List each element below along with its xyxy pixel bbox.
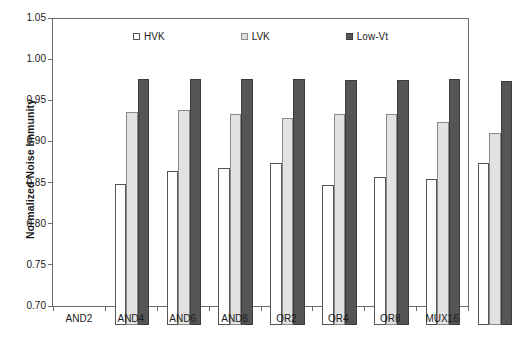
x-axis-tick-mark	[105, 307, 106, 311]
plot-area	[52, 18, 469, 307]
bar-group	[365, 38, 417, 325]
bar-lvk-and4	[178, 110, 190, 325]
bar-hvk-mux16	[478, 163, 490, 325]
bar-hvk-and6	[218, 168, 230, 325]
bar-hvk-or2	[322, 185, 334, 325]
x-axis-tick-mark	[416, 307, 417, 311]
bar-low-vt-and4	[190, 79, 202, 325]
bar-lvk-or2	[334, 114, 346, 325]
x-axis-tick-mark	[312, 307, 313, 311]
bar-group	[417, 38, 469, 325]
bar-lvk-or8	[437, 122, 449, 325]
bar-lvk-mux16	[489, 133, 501, 325]
x-axis-tick-mark	[209, 307, 210, 311]
bar-hvk-and8	[270, 163, 282, 325]
x-axis-tick-mark	[261, 307, 262, 311]
bar-group	[469, 38, 516, 325]
bar-low-vt-and6	[241, 79, 253, 325]
bar-low-vt-or2	[345, 80, 357, 325]
bar-group	[262, 38, 314, 325]
bar-hvk-and2	[115, 184, 127, 325]
y-axis-tick: 1.00	[0, 53, 52, 65]
bar-low-vt-and8	[293, 79, 305, 325]
bar-lvk-and2	[126, 112, 138, 325]
bar-low-vt-mux16	[501, 81, 513, 325]
y-axis-tick: 0.85	[0, 177, 52, 189]
y-axis-tick: 1.05	[0, 12, 52, 24]
x-axis-tick-mark	[157, 307, 158, 311]
y-axis-title: Normalized Noise Immunity	[24, 59, 36, 279]
bar-series-layer	[106, 38, 516, 325]
bar-hvk-or8	[426, 179, 438, 325]
bar-low-vt-or4	[397, 80, 409, 325]
bar-group	[106, 38, 158, 325]
x-axis-tick-mark	[468, 307, 469, 311]
bar-lvk-and8	[282, 118, 294, 325]
y-axis-tick: 0.95	[0, 94, 52, 106]
bar-low-vt-and2	[138, 79, 150, 325]
bar-group	[314, 38, 366, 325]
bar-group	[210, 38, 262, 325]
bar-hvk-and4	[167, 171, 179, 325]
y-axis-tick: 0.75	[0, 259, 52, 271]
bar-hvk-or4	[374, 177, 386, 325]
y-axis-tick: 0.90	[0, 135, 52, 147]
x-axis-tick-label: MUX16	[407, 313, 477, 324]
x-axis-tick-mark	[53, 307, 54, 311]
bar-low-vt-or8	[449, 79, 461, 325]
y-axis-tick: 0.70	[0, 300, 52, 312]
x-axis-tick-mark	[364, 307, 365, 311]
bar-lvk-and6	[230, 114, 242, 325]
bar-group	[158, 38, 210, 325]
bar-lvk-or4	[386, 114, 398, 325]
y-axis-tick: 0.80	[0, 218, 52, 230]
